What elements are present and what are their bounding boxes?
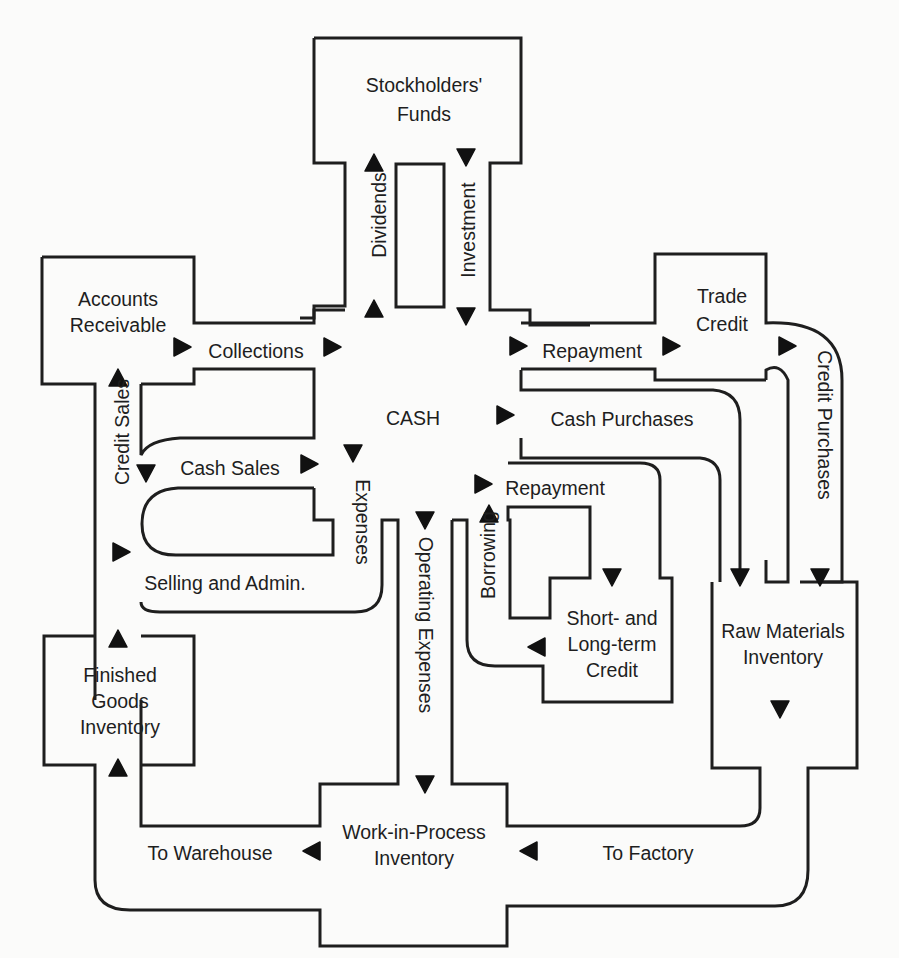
diagram-outlines [42,38,857,946]
selling-admin-label: Selling and Admin. [144,572,306,594]
arrow-right-icon [475,475,492,493]
arrow-right-icon [113,543,130,561]
arrow-left-icon [520,842,537,860]
credit-inner-loop [508,507,590,618]
stockholders-center-divider [396,164,444,307]
operating-expenses-label: Operating Expenses [415,537,437,714]
label-line: Credit [586,659,639,681]
finished-goods-label: FinishedGoodsInventory [80,664,160,738]
expenses-label: Expenses [352,479,374,565]
arrow-right-icon [301,455,318,473]
arrow-right-icon [510,337,527,355]
label-line: Inventory [743,646,823,668]
cash-flow-diagram: CASH Stockholders'Funds AccountsReceivab… [0,0,899,958]
label-line: Stockholders' [366,74,482,96]
arrow-down-icon [457,308,475,325]
cash-sales-label: Cash Sales [180,457,280,479]
label-line: Receivable [70,314,166,336]
label-line: Short- and [566,607,657,629]
arrow-right-icon [663,337,680,355]
arrow-down-icon [771,701,789,718]
collections-label: Collections [208,340,304,362]
arrow-right-icon [174,338,191,356]
arrow-up-icon [365,300,383,317]
trade-credit-label: TradeCredit [696,285,749,335]
label-line: Funds [397,103,451,125]
label-line: Raw Materials [721,620,845,642]
label-line: Goods [91,690,149,712]
to-warehouse-label: To Warehouse [147,842,272,864]
work-in-process-label: Work-in-ProcessInventory [342,821,486,869]
raw-materials-label: Raw MaterialsInventory [721,620,845,668]
cash-purchases-label: Cash Purchases [550,408,693,430]
arrow-down-icon [457,149,475,166]
flow-labels: Dividends Investment Collections Repayme… [111,172,836,864]
arrow-down-icon [344,445,362,462]
repayment-trade-label: Repayment [542,340,642,362]
label-line: Accounts [78,288,158,310]
arrow-right-icon [497,406,514,424]
dividends-label: Dividends [368,172,390,258]
investment-label: Investment [457,182,479,278]
arrow-down-icon [137,465,155,482]
selling-admin-loop [142,488,333,555]
repayment-credit-label: Repayment [505,477,605,499]
label-line: Trade [697,285,747,307]
arrow-up-icon [365,154,383,171]
label-line: Long-term [568,633,657,655]
arrow-right-icon [324,338,341,356]
arrow-left-icon [303,842,320,860]
arrow-left-icon [528,638,545,656]
label-line: Inventory [80,716,160,738]
arrow-down-icon [731,569,749,586]
arrow-down-icon [603,569,621,586]
label-line: Work-in-Process [342,821,486,843]
to-factory-label: To Factory [602,842,693,864]
stockholders-funds-label: Stockholders'Funds [366,74,482,125]
arrow-up-icon [109,630,127,647]
arrow-down-icon [416,776,434,793]
label-line: Credit [696,313,749,335]
short-long-credit-label: Short- andLong-termCredit [566,607,657,681]
arrow-up-icon [109,759,127,776]
credit-purchases-label: Credit Purchases [814,350,836,500]
borrowing-label: Borrowing [477,511,499,599]
arrow-down-icon [416,512,434,529]
credit-sales-label: Credit Sales [111,379,133,485]
expenses-channel [141,520,398,826]
cash-label: CASH [386,407,440,429]
label-line: Inventory [374,847,454,869]
label-line: Finished [83,664,157,686]
accounts-receivable-label: AccountsReceivable [70,288,166,336]
arrow-right-icon [779,337,796,355]
